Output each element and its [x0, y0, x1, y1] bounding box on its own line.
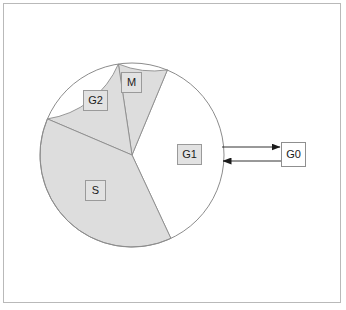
- figure-root: M G2 G1 S G0: [0, 0, 346, 310]
- phase-label-g0-text: G0: [286, 149, 301, 160]
- phase-label-m-text: M: [127, 77, 136, 88]
- phase-label-s[interactable]: S: [85, 180, 106, 201]
- phase-label-g2-text: G2: [88, 95, 103, 106]
- phase-label-g2[interactable]: G2: [83, 90, 108, 111]
- phase-label-g0[interactable]: G0: [281, 142, 306, 167]
- phase-label-s-text: S: [92, 185, 99, 196]
- phase-label-m[interactable]: M: [121, 72, 142, 93]
- phase-label-g1-text: G1: [182, 149, 197, 160]
- phase-label-g1[interactable]: G1: [177, 144, 202, 165]
